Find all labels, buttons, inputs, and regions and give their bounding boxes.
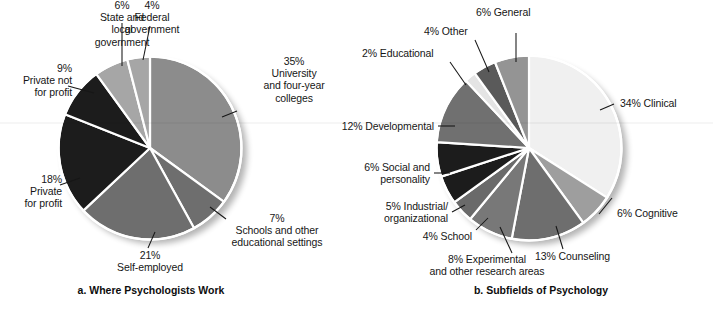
label-counseling: 13% Counseling [535,250,639,262]
label-developmental: 12% Developmental [322,120,434,132]
label-industrial-organizational: 5% Industrial/ organizational [348,200,448,224]
label-social-and-personality: 6% Social and personality [344,161,430,185]
psychology-pie-figure: 6% State and local government 4% Federal… [0,0,713,311]
label-other: 4% Other [424,25,504,37]
label-school: 4% School [396,230,472,242]
label-federal-government: 4% Federal government [108,0,196,36]
label-general: 6% General [476,6,586,18]
label-cognitive: 6% Cognitive [617,207,703,219]
left-chart-caption: a. Where Psychologists Work [40,284,262,296]
label-private-not-for-profit: 9% Private not for profit [0,62,72,99]
label-clinical: 34% Clinical [620,97,710,109]
label-educational: 2% Educational [362,47,456,59]
label-university-and-four-year-colleges: 35% University and four-year colleges [238,55,350,104]
label-private-for-profit: 18% Private for profit [0,173,62,210]
label-schools-and-other-educational-settings: 7% Schools and other educational setting… [203,212,351,249]
label-self-employed: 21% Self-employed [98,249,202,273]
right-chart-caption: b. Subfields of Psychology [446,284,636,296]
leader-educational [450,62,466,85]
